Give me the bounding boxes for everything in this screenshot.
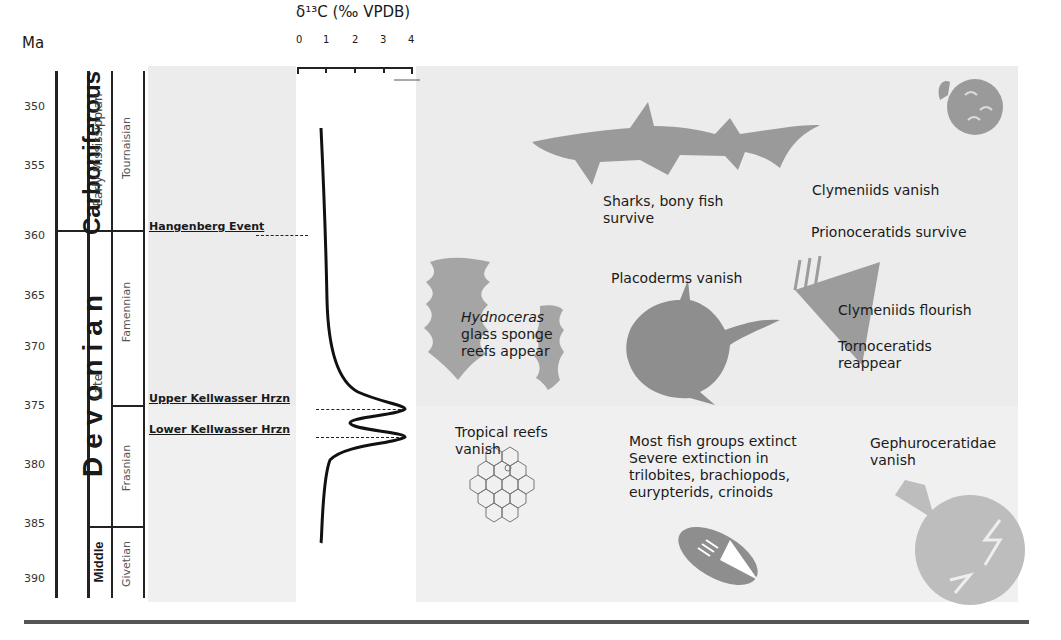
gephuroceratid-icon bbox=[895, 480, 1025, 605]
label-gephuroceratidae: Gephuroceratidaevanish bbox=[870, 435, 996, 469]
label-clymeniids-vanish: Clymeniids vanish bbox=[812, 182, 939, 199]
bottom-rule bbox=[24, 620, 1029, 624]
label-tornoceratids: Tornoceratidsreappear bbox=[838, 338, 932, 372]
trilobite-icon bbox=[669, 515, 767, 597]
label-sharks: Sharks, bony fishsurvive bbox=[603, 193, 723, 227]
ammonoid-icon bbox=[939, 79, 1003, 135]
label-prionoceratids: Prionoceratids survive bbox=[811, 224, 967, 241]
label-hydnoceras: Hydnocerasglass spongereefs appear bbox=[461, 309, 553, 360]
label-placoderms: Placoderms vanish bbox=[611, 270, 742, 287]
placoderm-icon bbox=[626, 280, 780, 405]
shark-icon bbox=[532, 102, 820, 185]
label-clymeniids-flourish: Clymeniids flourish bbox=[838, 302, 972, 319]
isotope-curve bbox=[321, 128, 405, 543]
label-tropical-reefs: Tropical reefsvanish bbox=[455, 424, 548, 458]
label-fish-extinct: Most fish groups extinctSevere extinctio… bbox=[629, 433, 797, 501]
isotope-axis-line bbox=[298, 68, 412, 74]
coral-reef-icon bbox=[470, 447, 534, 522]
